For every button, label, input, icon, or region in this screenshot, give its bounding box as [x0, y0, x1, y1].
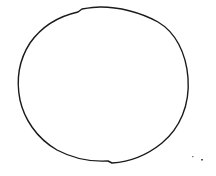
stray-mark: [201, 159, 203, 161]
background: [0, 0, 216, 176]
stray-mark: [192, 156, 194, 157]
circle-sketch: [0, 0, 216, 176]
sketch-canvas: Hand-drawn circle sketch: [0, 0, 216, 176]
